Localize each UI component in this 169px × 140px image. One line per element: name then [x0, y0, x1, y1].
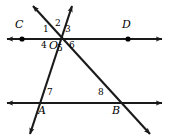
angle-label-8: 8: [98, 88, 104, 97]
point-dot-C: [19, 36, 24, 41]
angle-label-4: 4: [41, 41, 47, 50]
point-label-B: B: [112, 105, 120, 116]
geometry-canvas: [0, 0, 169, 140]
geometry-figure: C D O A B 1 2 3 4 5 6 7 8: [0, 0, 169, 140]
angle-label-2: 2: [55, 19, 61, 28]
point-label-A: A: [38, 105, 46, 116]
point-dot-D: [125, 36, 130, 41]
angle-label-7: 7: [47, 88, 53, 97]
angle-label-5: 5: [57, 44, 63, 53]
angle-label-6: 6: [69, 41, 75, 50]
angle-label-1: 1: [43, 25, 49, 34]
point-label-C: C: [15, 19, 23, 30]
point-label-D: D: [122, 19, 131, 30]
lines-group: [7, 6, 162, 134]
angle-label-3: 3: [65, 25, 71, 34]
